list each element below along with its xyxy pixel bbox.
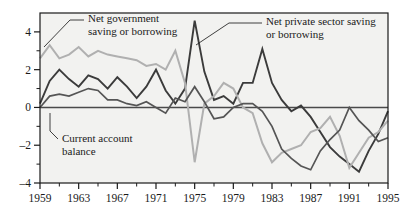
x-tick-label: 1987 (299, 192, 322, 204)
x-tick-label: 1991 (338, 192, 361, 204)
y-tick-label: 4 (25, 26, 31, 38)
y-tick-label: –2 (19, 139, 32, 151)
net-private-annotation-line1: Net private sector saving (266, 15, 376, 27)
y-tick-label: 0 (25, 101, 31, 113)
x-tick-label: 1975 (183, 192, 206, 204)
net-private-annotation-line2: or borrowing (266, 28, 324, 40)
x-tick-label: 1983 (261, 192, 284, 204)
x-tick-label: 1959 (29, 192, 52, 204)
net-government-annotation-line1: Net government (88, 12, 159, 24)
chart-figure: 1959196319671971197519791983198719911995… (0, 0, 406, 214)
current-account-annotation-line2: balance (62, 145, 96, 157)
current-account-annotation-line1: Current account (62, 132, 133, 144)
x-tick-label: 1979 (222, 192, 245, 204)
chart-canvas: 1959196319671971197519791983198719911995… (0, 0, 406, 214)
x-tick-label: 1971 (145, 192, 168, 204)
net-government-annotation-line2: saving or borrowing (88, 25, 178, 37)
x-tick-label: 1995 (377, 192, 400, 204)
x-tick-label: 1963 (67, 192, 90, 204)
y-tick-label: –4 (19, 177, 32, 189)
y-tick-label: 2 (25, 64, 31, 76)
x-tick-label: 1967 (106, 192, 129, 204)
